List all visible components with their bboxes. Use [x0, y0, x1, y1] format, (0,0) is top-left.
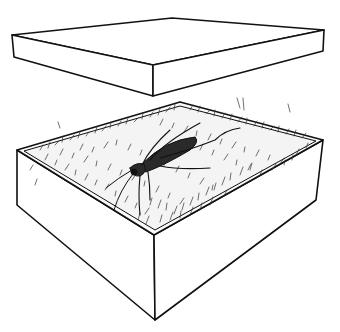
illustration: [0, 0, 340, 332]
lid: [12, 18, 324, 96]
box: [17, 102, 323, 320]
